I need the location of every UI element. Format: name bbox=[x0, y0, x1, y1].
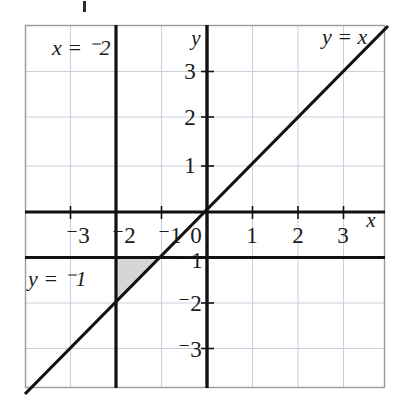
y-tick-label-neg3: ⁻3 bbox=[178, 337, 202, 362]
x-tick-label-0: 0 bbox=[190, 223, 202, 248]
graph-svg: ⁻3 ⁻2 ⁻1 0 1 2 3 3 2 1 ⁻1 ⁻2 ⁻3 x y x = … bbox=[0, 0, 409, 398]
x-tick-label-3: 3 bbox=[337, 223, 349, 248]
label-x-equals-neg2: x = ⁻2 bbox=[51, 35, 111, 60]
cropped-header-mark bbox=[83, 1, 86, 12]
y-axis-label: y bbox=[189, 26, 201, 50]
x-tick-label-neg3: ⁻3 bbox=[66, 223, 90, 248]
label-y-equals-x: y = x bbox=[320, 24, 368, 49]
y-tick-label-3: 3 bbox=[184, 59, 196, 84]
x-tick-label-neg2: ⁻2 bbox=[112, 223, 136, 248]
label-y-equals-neg1: y = ⁻1 bbox=[26, 266, 87, 291]
x-tick-label-neg1: ⁻1 bbox=[158, 223, 182, 248]
x-tick-label-1: 1 bbox=[246, 223, 258, 248]
y-tick-label-1: 1 bbox=[184, 153, 196, 178]
plot-background bbox=[25, 25, 385, 388]
coordinate-plane-figure: ⁻3 ⁻2 ⁻1 0 1 2 3 3 2 1 ⁻1 ⁻2 ⁻3 x y x = … bbox=[0, 0, 409, 398]
x-axis-label: x bbox=[365, 208, 376, 232]
x-tick-label-2: 2 bbox=[292, 223, 304, 248]
cropped-header-text bbox=[60, 0, 280, 16]
y-tick-label-neg1: ⁻1 bbox=[179, 248, 203, 273]
y-tick-label-neg2: ⁻2 bbox=[178, 291, 202, 316]
y-tick-label-2: 2 bbox=[184, 105, 196, 130]
